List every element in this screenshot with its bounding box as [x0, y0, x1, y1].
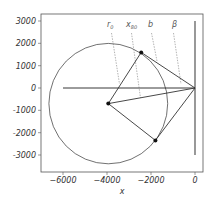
upper-point — [139, 50, 143, 54]
ytick-label: -3000 — [13, 151, 36, 160]
ytick-label: -1000 — [13, 106, 36, 115]
center-point — [106, 102, 110, 106]
b-dash-line — [152, 33, 158, 61]
x-axis-label: x — [119, 187, 125, 196]
ytick-label: 0 — [31, 84, 36, 93]
r0-dash-line — [112, 33, 120, 84]
beta-label: β — [171, 20, 177, 29]
lower-point — [153, 138, 157, 142]
xtick-label: 0 — [192, 176, 197, 185]
chart-svg: r0 x80 b β 3000 2000 1000 0 -1000 -2000 … — [0, 0, 214, 200]
x-axis: −6000 −4000 −2000 0 x — [49, 172, 197, 196]
axes-frame — [41, 14, 203, 172]
xtick-label: −2000 — [137, 176, 164, 185]
r0-label: r0 — [107, 20, 113, 30]
y-axis: 3000 2000 1000 0 -1000 -2000 -3000 — [13, 17, 41, 160]
ytick-label: -2000 — [13, 129, 36, 138]
ytick-label: 1000 — [16, 62, 36, 71]
ytick-label: 3000 — [16, 17, 36, 26]
ytick-label: 2000 — [16, 39, 36, 48]
xtick-label: −6000 — [49, 176, 76, 185]
segments — [108, 52, 195, 140]
b-label: b — [148, 20, 153, 29]
x80-label: x80 — [125, 20, 137, 30]
xtick-label: −4000 — [93, 176, 120, 185]
